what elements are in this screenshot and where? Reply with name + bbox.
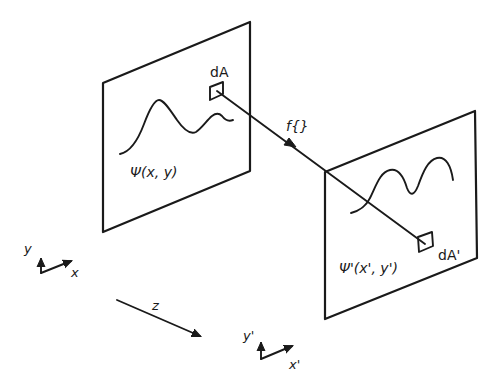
- output-plane: dA' Ψ'(x', y'): [325, 111, 477, 319]
- input-y-axis-label: y: [23, 241, 32, 256]
- z-axis-label: z: [151, 298, 160, 313]
- output-y-axis-label: y': [242, 328, 254, 343]
- input-x-axis: [41, 261, 71, 273]
- propagation-diagram: dA Ψ(x, y) f{} dA' Ψ'(x', y') y x z y' x…: [0, 0, 496, 383]
- output-plane-frame: [325, 111, 477, 319]
- input-field-label: Ψ(x, y): [130, 164, 177, 180]
- input-axes: y x: [23, 241, 79, 280]
- input-plane-frame: [103, 22, 250, 232]
- mapping-ray: f{}: [217, 91, 425, 244]
- output-area-element-label: dA': [438, 247, 460, 263]
- input-x-axis-label: x: [70, 265, 79, 280]
- output-field-label: Ψ'(x', y'): [339, 260, 398, 276]
- mapping-ray-line: [217, 91, 425, 244]
- output-field-curve: [351, 158, 453, 213]
- mapping-ray-arrowhead-icon: [284, 138, 296, 147]
- output-area-element: [418, 232, 433, 252]
- output-x-axis: [261, 346, 292, 359]
- output-x-axis-label: x': [288, 357, 300, 372]
- mapping-function-label: f{}: [286, 118, 309, 134]
- input-area-element-label: dA: [210, 64, 229, 80]
- output-axes: y' x': [242, 328, 300, 372]
- input-plane: dA Ψ(x, y): [103, 22, 250, 232]
- propagation-axis: z: [117, 298, 200, 336]
- input-field-curve: [120, 100, 233, 154]
